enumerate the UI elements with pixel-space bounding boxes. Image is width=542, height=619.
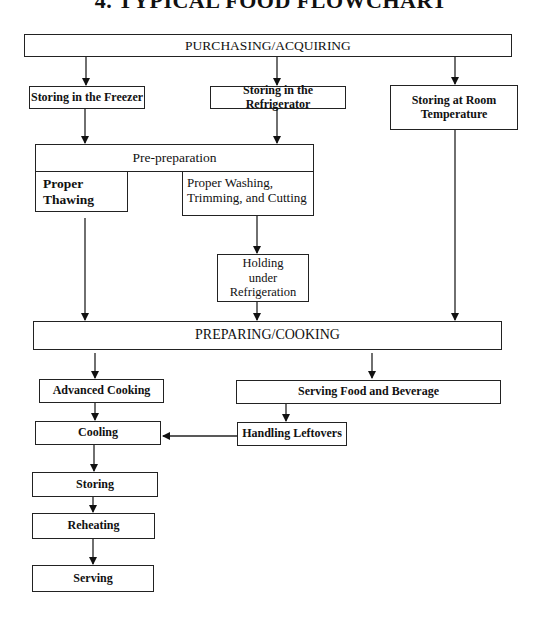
node-serving: Serving [32,565,154,592]
node-preparing-label: PREPARING/COOKING [195,327,340,343]
node-advanced-cooking: Advanced Cooking [39,379,164,403]
node-pre-preparation-label: Pre-preparation [133,150,217,166]
node-serving-food: Serving Food and Beverage [236,380,501,404]
node-thawing: Proper Thawing [35,171,128,212]
node-thawing-label: Proper Thawing [43,176,94,207]
node-purchasing: PURCHASING/ACQUIRING [24,34,512,57]
node-holding: Holding under Refrigeration [217,254,309,302]
node-room-temp-label: Storing at Room Temperature [412,94,497,122]
node-advanced-cooking-label: Advanced Cooking [53,384,151,398]
node-serving-label: Serving [73,572,112,586]
node-leftovers: Handling Leftovers [237,422,347,446]
node-reheating: Reheating [32,513,155,539]
node-freezer-label: Storing in the Freezer [31,91,143,105]
node-leftovers-label: Handling Leftovers [242,427,342,441]
node-storing-label: Storing [76,478,114,492]
node-washing: Proper Washing, Trimming, and Cutting [182,171,314,216]
node-cooling-label: Cooling [78,426,118,440]
node-cooling: Cooling [35,421,161,445]
node-preparing: PREPARING/COOKING [33,321,502,350]
node-pre-preparation: Pre-preparation [35,144,314,172]
node-holding-label: Holding under Refrigeration [230,256,297,299]
node-room-temp: Storing at Room Temperature [390,85,518,130]
flowchart-title: 4. TYPICAL FOOD FLOWCHART [0,0,542,14]
node-purchasing-label: PURCHASING/ACQUIRING [185,38,351,54]
node-freezer: Storing in the Freezer [29,86,145,109]
node-refrigerator-label: Storing in the Refrigerator [211,84,345,112]
node-storing: Storing [32,472,158,497]
node-washing-label: Proper Washing, Trimming, and Cutting [187,176,307,206]
node-serving-food-label: Serving Food and Beverage [298,385,439,399]
node-refrigerator: Storing in the Refrigerator [210,86,346,109]
node-reheating-label: Reheating [68,519,120,533]
